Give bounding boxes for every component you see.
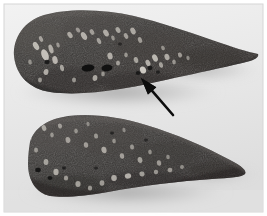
tissue-feature — [34, 147, 38, 152]
tissue-feature — [44, 159, 49, 165]
tissue-feature — [62, 166, 66, 170]
tissue-feature — [144, 138, 148, 141]
tissue-feature — [44, 60, 49, 64]
tissue-feature — [156, 70, 160, 74]
tissue-feature — [116, 60, 120, 65]
tissue-feature — [100, 180, 105, 186]
specimen-photograph — [0, 0, 267, 216]
tissue-feature — [38, 78, 42, 83]
tissue-feature — [136, 71, 141, 75]
tissue-feature — [118, 43, 122, 46]
tissue-feature — [101, 72, 105, 77]
tissue-feature — [64, 175, 68, 180]
tissue-feature — [35, 168, 41, 172]
tissue-feature — [48, 176, 53, 180]
tissue-feature — [110, 131, 114, 134]
tissue-feature — [88, 185, 92, 190]
tissue-feature — [94, 166, 98, 169]
gross-pathology-figure — [0, 0, 267, 216]
tissue-feature — [53, 169, 58, 175]
tissue-feature — [75, 181, 80, 187]
